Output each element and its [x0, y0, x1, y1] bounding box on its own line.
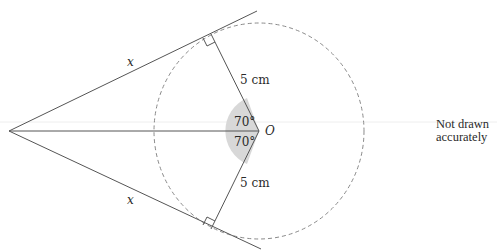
- tangent-lower: [9, 131, 261, 249]
- label-centre-o: O: [265, 124, 275, 138]
- label-angle-lower: 70°: [234, 135, 255, 149]
- label-radius-lower: 5 cm: [240, 176, 270, 190]
- note-line-2: accurately: [436, 131, 497, 144]
- label-x-lower: x: [127, 193, 134, 207]
- not-drawn-accurately-note: Not drawn accurately: [436, 118, 497, 144]
- label-x-upper: x: [127, 55, 134, 69]
- diagram-canvas: x x 5 cm 5 cm 70° 70° O Not drawn accura…: [0, 0, 497, 251]
- label-angle-upper: 70°: [234, 115, 255, 129]
- tangent-upper: [9, 11, 257, 131]
- label-radius-upper: 5 cm: [240, 73, 270, 87]
